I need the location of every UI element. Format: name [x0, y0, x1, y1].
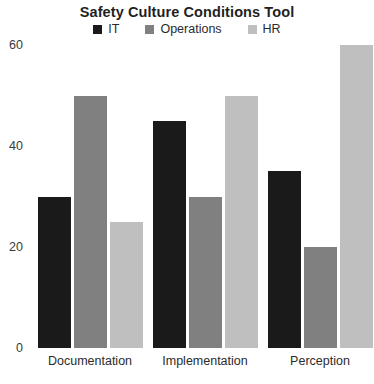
bar-group-documentation [36, 45, 144, 348]
legend-label: Operations [160, 23, 221, 36]
legend-item-hr[interactable]: HR [248, 23, 281, 36]
bar-implementation-hr[interactable] [225, 96, 258, 349]
y-axis-tick-label: 40 [9, 139, 23, 153]
y-axis-tick-label: 0 [16, 341, 23, 355]
legend-label: HR [263, 23, 281, 36]
bar-implementation-it[interactable] [153, 121, 186, 348]
bar-documentation-it[interactable] [38, 197, 71, 349]
legend-item-operations[interactable]: Operations [145, 23, 221, 36]
legend-swatch-icon [145, 25, 154, 34]
bar-group-implementation [151, 45, 259, 348]
plot-area: 0204060 [30, 45, 374, 348]
x-axis-category-label: Documentation [48, 354, 132, 368]
y-axis-tick-label: 20 [9, 240, 23, 254]
bar-documentation-hr[interactable] [110, 222, 143, 348]
bar-perception-operations[interactable] [304, 247, 337, 348]
legend-swatch-icon [93, 25, 102, 34]
legend-swatch-icon [248, 25, 257, 34]
bar-perception-hr[interactable] [340, 45, 373, 348]
bar-documentation-operations[interactable] [74, 96, 107, 349]
bar-perception-it[interactable] [268, 171, 301, 348]
x-axis-category-label: Implementation [162, 354, 247, 368]
legend-label: IT [108, 23, 119, 36]
bar-chart: Safety Culture Conditions Tool ITOperati… [0, 0, 374, 384]
chart-legend: ITOperationsHR [0, 23, 374, 36]
y-axis-tick-label: 60 [9, 38, 23, 52]
legend-item-it[interactable]: IT [93, 23, 119, 36]
bar-group-perception [266, 45, 374, 348]
chart-title: Safety Culture Conditions Tool [0, 4, 374, 20]
x-axis-category-label: Perception [290, 354, 350, 368]
bar-implementation-operations[interactable] [189, 197, 222, 349]
